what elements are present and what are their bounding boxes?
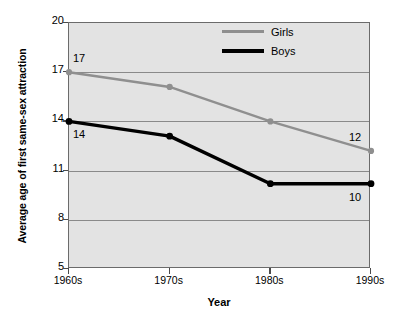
chart-figure: Average age of first same-sex attraction… bbox=[0, 0, 404, 324]
legend-label: Boys bbox=[271, 45, 295, 57]
data-point-marker bbox=[267, 118, 273, 124]
legend-swatch-icon bbox=[222, 30, 264, 33]
data-point-marker bbox=[66, 69, 72, 75]
data-point-label: 14 bbox=[73, 128, 85, 140]
legend-swatch-icon bbox=[222, 49, 264, 53]
y-axis-tick-label: 11 bbox=[24, 162, 64, 174]
series-line-girls bbox=[69, 72, 371, 151]
y-axis-tick-label: 20 bbox=[24, 14, 64, 26]
chart-legend: GirlsBoys bbox=[222, 22, 334, 60]
x-axis-tick-label: 1980s bbox=[239, 274, 299, 286]
legend-item-girls[interactable]: Girls bbox=[222, 22, 334, 41]
data-point-marker bbox=[267, 180, 274, 187]
x-axis-tick-label: 1960s bbox=[38, 274, 98, 286]
y-axis-tick-label: 5 bbox=[24, 260, 64, 272]
data-point-marker bbox=[66, 118, 73, 125]
x-axis-title: Year bbox=[68, 296, 370, 308]
y-axis-tick-label: 14 bbox=[24, 112, 64, 124]
data-point-label: 12 bbox=[349, 131, 361, 143]
data-point-marker bbox=[368, 180, 375, 187]
data-point-label: 10 bbox=[349, 191, 361, 203]
data-point-marker bbox=[368, 148, 374, 154]
legend-item-boys[interactable]: Boys bbox=[222, 41, 334, 60]
data-point-marker bbox=[167, 84, 173, 90]
x-axis-tick-label: 1970s bbox=[139, 274, 199, 286]
y-axis-tick-label: 17 bbox=[24, 63, 64, 75]
series-line-boys bbox=[69, 121, 371, 183]
x-axis-tick-label: 1990s bbox=[340, 274, 400, 286]
y-axis-title: Average age of first same-sex attraction bbox=[16, 16, 28, 276]
legend-label: Girls bbox=[271, 26, 294, 38]
data-point-marker bbox=[166, 133, 173, 140]
y-axis-tick-label: 8 bbox=[24, 211, 64, 223]
data-point-label: 17 bbox=[73, 52, 85, 64]
